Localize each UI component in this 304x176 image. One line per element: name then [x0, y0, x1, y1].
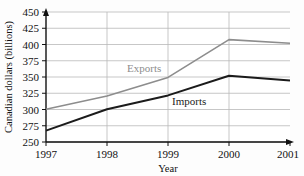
x-tick-label: 2000 [218, 148, 241, 160]
y-tick-label: 275 [23, 120, 40, 132]
y-tick-label: 400 [23, 39, 40, 51]
x-tick-label: 1999 [157, 148, 180, 160]
y-tick-label: 425 [23, 22, 40, 34]
y-tick-label: 450 [23, 6, 40, 18]
y-tick-label: 250 [23, 136, 40, 148]
x-tick-label: 1998 [96, 148, 119, 160]
x-tick-labels: 1997 1998 1999 2000 2001 [35, 148, 299, 160]
series-label-exports: Exports [127, 62, 161, 74]
y-tick-label: 300 [23, 104, 40, 116]
chart-canvas: 450 425 400 375 350 325 300 275 250 1997… [0, 0, 304, 176]
series-label-imports: Imports [172, 95, 206, 107]
line-chart-figure: 450 425 400 375 350 325 300 275 250 1997… [0, 0, 304, 176]
y-axis-title: Canadian dollars (billions) [3, 21, 15, 133]
x-tick-label: 2001 [277, 148, 299, 160]
y-tick-label: 350 [23, 71, 40, 83]
y-tick-labels: 450 425 400 375 350 325 300 275 250 [23, 6, 40, 148]
y-tick-label: 375 [23, 55, 40, 67]
x-tick-label: 1997 [35, 148, 58, 160]
y-tick-label: 325 [23, 87, 40, 99]
x-axis-title: Year [158, 163, 178, 174]
